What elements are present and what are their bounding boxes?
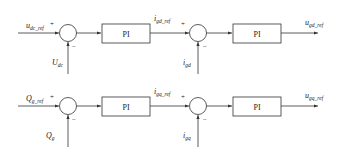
minus-sign: − <box>203 116 207 124</box>
feedback2-label: igd <box>183 58 191 68</box>
control-block-diagram: udc_ref + − Udc PI igd_ref + − igd PI ug… <box>0 0 346 157</box>
feedback2-label: igq <box>183 131 191 141</box>
pi-label-1: PI <box>122 103 129 112</box>
pi-label-1: PI <box>122 30 129 39</box>
input-label: Qg_ref <box>26 94 45 104</box>
summing-junction-2 <box>190 25 207 42</box>
plus-sign: + <box>50 20 54 28</box>
feedback1-label: Udc <box>52 58 64 68</box>
intermediate-label: igq_ref <box>154 87 172 97</box>
pi-label-2: PI <box>253 103 260 112</box>
plus-sign: + <box>181 93 185 101</box>
minus-sign: − <box>203 43 207 51</box>
plus-sign: + <box>181 20 185 28</box>
row-reactive-power-loop <box>18 97 318 147</box>
row-dc-voltage-loop <box>18 24 318 74</box>
minus-sign: − <box>72 43 76 51</box>
pi-label-2: PI <box>253 30 260 39</box>
output-label: ugq_ref <box>305 91 325 101</box>
intermediate-label: igd_ref <box>154 14 172 24</box>
plus-sign: + <box>50 93 54 101</box>
summing-junction-1 <box>60 98 77 115</box>
summing-junction-1 <box>60 25 77 42</box>
output-label: ugd_ref <box>305 18 325 28</box>
input-label: udc_ref <box>26 21 45 31</box>
summing-junction-2 <box>190 98 207 115</box>
feedback1-label: Qg <box>46 131 55 141</box>
minus-sign: − <box>72 116 76 124</box>
